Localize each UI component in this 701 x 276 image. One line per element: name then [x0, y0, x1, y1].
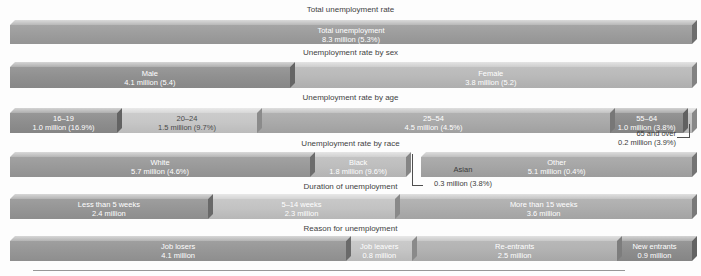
segment-label: White — [150, 158, 169, 167]
segment-value: 0.9 million — [638, 251, 672, 260]
segment-label: Female — [478, 69, 503, 78]
section-title-sex: Unemployment rate by sex — [0, 48, 701, 58]
bar-sex: Male4.1 million (5.4)Female3.8 million (… — [10, 67, 692, 88]
segment-value: 5.1 million (0.4%) — [528, 167, 586, 176]
bar-age: 16–191.0 million (16.9%)20–241.5 million… — [10, 113, 692, 133]
bar-total: Total unemployment8.3 million (5.3%) — [10, 25, 692, 44]
segment-more-than-15-weeks: More than 15 weeks3.6 million — [395, 199, 692, 219]
segment-total-unemployment: Total unemployment8.3 million (5.3%) — [10, 25, 692, 44]
segment-side-bevel — [692, 236, 697, 261]
callout-asian-bracket-line — [412, 154, 413, 186]
bar-duration: Less than 5 weeks2.4 million5–14 weeks2.… — [10, 199, 692, 219]
segment-side-bevel — [692, 62, 697, 88]
unemployment-breakdown-chart: Total unemployment rateTotal unemploymen… — [0, 0, 701, 276]
segment-20-24: 20–241.5 million (9.7%) — [117, 113, 257, 133]
bar-race: White5.7 million (4.6%)Black1.8 million … — [10, 157, 692, 177]
segment-label: 20–24 — [177, 114, 198, 123]
segment-side-bevel — [692, 108, 697, 133]
bottom-divider — [33, 270, 625, 271]
segment-value: 2.4 million — [92, 209, 126, 218]
segment-label: Re-entrants — [495, 242, 534, 251]
segment-value: 8.3 million (5.3%) — [322, 35, 380, 44]
segment-label: More than 15 weeks — [510, 200, 578, 209]
segment-value: 1.8 million (9.6%) — [329, 167, 387, 176]
segment-label: Less than 5 weeks — [78, 200, 140, 209]
section-title-age: Unemployment rate by age — [0, 93, 701, 103]
callout-65-value: 0.2 million (3.9%) — [618, 138, 676, 147]
segment-value: 4.1 million (5.4) — [124, 78, 175, 87]
segment-black: Black1.8 million (9.6%) — [310, 157, 406, 177]
segment-side-bevel — [692, 20, 697, 44]
segment-label: 16–19 — [53, 114, 74, 123]
segment-side-bevel — [692, 152, 697, 177]
segment-less-than-5-weeks: Less than 5 weeks2.4 million — [10, 199, 208, 219]
segment-value: 5.7 million (4.6%) — [131, 167, 189, 176]
callout-asian: Asian 0.3 million (3.8%) — [424, 165, 502, 188]
callout-asian-value: 0.3 million (3.8%) — [424, 179, 502, 188]
callout-65-label: 65 and over — [618, 129, 676, 138]
segment-16-19: 16–191.0 million (16.9%) — [10, 113, 117, 133]
segment-value: 4.1 million — [161, 251, 195, 260]
section-title-total: Total unemployment rate — [0, 5, 701, 15]
segment-label: Job leavers — [360, 242, 398, 251]
section-title-race: Unemployment rate by race — [0, 139, 701, 149]
segment-value: 3.6 million — [527, 209, 561, 218]
segment-label: 25–54 — [423, 114, 444, 123]
segment-label: 5–14 weeks — [282, 200, 322, 209]
segment-female: Female3.8 million (5.2) — [290, 67, 692, 88]
segment-label: 55–64 — [636, 114, 657, 123]
segment-5-14-weeks: 5–14 weeks2.3 million — [208, 199, 396, 219]
callout-65-bracket-line — [677, 137, 690, 138]
callout-asian-bracket-line — [412, 185, 423, 186]
segment-side-bevel — [692, 194, 697, 219]
segment-label: Black — [349, 158, 367, 167]
section-title-duration: Duration of unemployment — [0, 182, 701, 192]
segment-value: 4.5 million (4.5%) — [405, 123, 463, 132]
segment-value: 1.5 million (9.7%) — [158, 123, 216, 132]
segment-value: 2.3 million — [285, 209, 319, 218]
callout-asian-label: Asian — [424, 165, 502, 174]
segment-white: White5.7 million (4.6%) — [10, 157, 310, 177]
segment-label: Other — [547, 158, 566, 167]
segment-label: Male — [142, 69, 158, 78]
segment-value: 1.0 million (16.9%) — [32, 123, 94, 132]
segment-value: 3.8 million (5.2) — [465, 78, 516, 87]
segment-25-54: 25–544.5 million (4.5%) — [257, 113, 610, 133]
segment-value: 2.5 million — [498, 251, 532, 260]
section-title-reason: Reason for unemployment — [0, 224, 701, 234]
callout-65-bracket-line — [689, 124, 690, 138]
segment-label: Job losers — [161, 242, 195, 251]
segment-label: Total unemployment — [317, 26, 384, 35]
bar-reason: Job losers4.1 millionJob leavers0.8 mill… — [10, 241, 692, 261]
segment-male: Male4.1 million (5.4) — [10, 67, 290, 88]
segment-job-losers: Job losers4.1 million — [10, 241, 346, 261]
callout-65-and-over: 65 and over 0.2 million (3.9%) — [618, 129, 676, 147]
segment-value: 0.8 million — [362, 251, 396, 260]
segment-re-entrants: Re-entrants2.5 million — [412, 241, 617, 261]
segment-job-leavers: Job leavers0.8 million — [346, 241, 412, 261]
segment-new-entrants: New entrants0.9 million — [617, 241, 692, 261]
segment-label: New entrants — [632, 242, 676, 251]
